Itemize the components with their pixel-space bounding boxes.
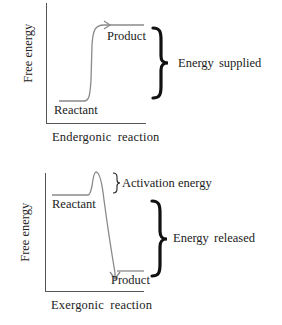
y-axis-label: Free energy — [19, 197, 32, 267]
y-axis-label: Free energy — [22, 18, 35, 88]
product-label: Product — [111, 274, 150, 287]
x-axis-label: Exergonic reaction — [51, 298, 152, 313]
reactant-label: Reactant — [52, 198, 96, 211]
activation-brace-icon — [113, 173, 120, 193]
reactant-label: Reactant — [54, 104, 98, 117]
energy-curve — [52, 172, 115, 278]
energy-released-label: Energy released — [173, 231, 255, 246]
brace-icon — [152, 201, 167, 276]
activation-energy-label: Activation energy — [122, 177, 212, 190]
exergonic-diagram: Free energy Reactant Activation energy E… — [0, 160, 282, 325]
brace-icon — [153, 28, 168, 98]
x-axis-label: Endergonic reaction — [52, 130, 160, 145]
product-label: Product — [107, 30, 146, 43]
energy-supplied-label: Energy supplied — [178, 56, 261, 71]
endergonic-diagram: Free energy Product Reactant Energy supp… — [0, 0, 282, 160]
